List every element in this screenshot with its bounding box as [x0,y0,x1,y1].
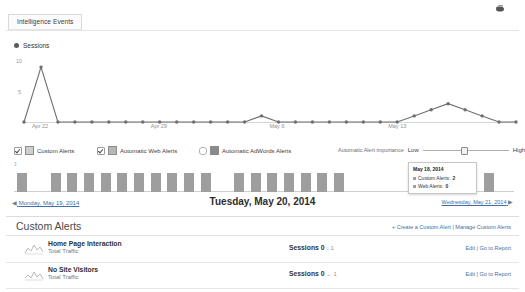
bar-apr-25[interactable] [84,173,94,192]
legend-label-sessions: Sessions [23,42,49,49]
tooltip-row-web-alerts: Web Alerts: 0 [413,183,473,191]
tab-intelligence-events[interactable]: Intelligence Events [8,14,82,30]
x-axis-tick-may13: May 13 [388,123,406,129]
alert-metric: Sessions 0 ← 1 [289,270,337,277]
bar-y-axis-tick: 3 [14,162,17,167]
bar-may-19[interactable] [484,173,494,192]
checkbox-custom-alerts[interactable] [14,147,22,155]
tab-label: Intelligence Events [17,18,73,25]
alert-metric-value: 0 [321,244,325,251]
custom-alerts-divider [6,235,519,236]
bar-may-7[interactable] [284,173,294,192]
go-to-report-link[interactable]: Go to Report [480,271,512,277]
swatch-automatic-adwords-alerts [210,146,219,155]
tooltip-swatch-icon [413,185,416,188]
importance-high-label: High [513,147,525,153]
bar-may-4[interactable] [234,173,244,192]
alert-row-no-site-visitors[interactable]: No Site Visitors Total Traffic Sessions … [0,263,525,289]
filter-label-automatic-adwords-alerts: Automatic AdWords Alerts [222,148,291,154]
filter-custom-alerts[interactable]: Custom Alerts [14,146,74,155]
bar-may-8[interactable] [301,173,311,192]
sparkline-icon [24,242,44,255]
bar-apr-30[interactable] [167,173,177,192]
bar-may-1[interactable] [184,173,194,192]
filter-automatic-web-alerts[interactable]: Automatic Web Alerts [97,146,177,155]
next-arrow-icon[interactable]: ▶ [508,199,513,205]
bar-may-6[interactable] [267,173,277,192]
bar-apr-26[interactable] [101,173,111,192]
bar-may-5[interactable] [251,173,261,192]
bar-apr-28[interactable] [134,173,144,192]
bar-apr-23[interactable] [51,173,61,192]
importance-low-label: Low [408,147,419,153]
go-to-report-link[interactable]: Go to Report [480,245,512,251]
tooltip-label-custom-alerts: Custom Alerts: [418,175,451,183]
edit-link[interactable]: Edit [466,245,475,251]
filter-label-custom-alerts: Custom Alerts [37,148,74,154]
alert-name[interactable]: No Site Visitors [48,266,98,273]
legend-dot-icon [14,43,19,48]
x-axis-tick-may6: May 6 [269,123,284,129]
date-navigation: ◀ Monday, May 19, 2014 Tuesday, May 20, … [0,196,525,214]
alert-row-divider [6,288,519,289]
next-day-link[interactable]: Wednesday, May 21, 2014 ▶ [442,199,513,205]
swatch-automatic-web-alerts [108,146,117,155]
alert-actions: Edit | Go to Report [466,271,511,277]
alert-subtitle: Total Traffic [48,248,79,254]
x-axis-tick-apr29: Apr 29 [151,123,167,129]
intelligence-events-page: Intelligence Events Sessions 10 5 Apr 22… [0,0,525,292]
alert-metric-label: Sessions [289,244,319,251]
alert-row-home-page-interaction[interactable]: Home Page Interaction Total Traffic Sess… [0,237,525,263]
bar-tooltip: May 18, 2014 Custom Alerts: 2 Web Alerts… [408,162,477,194]
custom-alerts-links: + Create a Custom Alert | Manage Custom … [392,224,511,230]
bar-apr-29[interactable] [151,173,161,192]
tooltip-swatch-icon [413,177,416,180]
create-custom-alert-link[interactable]: + Create a Custom Alert [392,224,451,230]
bar-apr-24[interactable] [67,173,77,192]
swatch-custom-alerts [25,146,34,155]
date-nav-divider [6,216,519,217]
alert-actions: Edit | Go to Report [466,245,511,251]
top-bar: Intelligence Events [0,0,525,31]
line-series [0,55,525,133]
share-icon[interactable] [494,4,506,13]
tooltip-value-web-alerts: 0 [445,183,448,191]
next-day-label: Wednesday, May 21, 2014 [442,199,507,205]
edit-link[interactable]: Edit [466,271,475,277]
alert-metric: Sessions 0 ↓ 1 [289,244,334,251]
alert-metric-delta: ← 1 [326,271,336,277]
tooltip-row-custom-alerts: Custom Alerts: 2 [413,175,473,183]
filter-automatic-adwords-alerts[interactable]: Automatic AdWords Alerts [199,146,291,155]
topbar-divider [6,30,519,31]
importance-slider[interactable] [423,146,509,154]
alert-subtitle: Total Traffic [48,274,79,280]
alert-metric-label: Sessions [289,270,319,277]
tooltip-label-web-alerts: Web Alerts: [418,183,443,191]
bar-apr-21[interactable] [17,173,27,192]
bar-apr-27[interactable] [117,173,127,192]
sessions-line-chart: 10 5 Apr 22 Apr 29 May 6 May 13 [0,55,525,133]
alert-name[interactable]: Home Page Interaction [48,240,122,247]
bar-may-2[interactable] [201,173,211,192]
x-axis-tick-apr22: Apr 22 [32,123,48,129]
importance-label: Automatic Alert importance [338,147,404,153]
checkbox-automatic-web-alerts[interactable] [97,147,105,155]
custom-alerts-title: Custom Alerts [16,220,81,232]
slider-knob[interactable] [461,147,468,155]
bar-may-9[interactable] [317,173,327,192]
filter-label-automatic-web-alerts: Automatic Web Alerts [120,148,177,154]
tooltip-value-custom-alerts: 2 [453,175,456,183]
sparkline-icon [24,268,44,281]
alert-metric-delta: ↓ 1 [326,245,333,251]
alert-importance-control: Automatic Alert importance Low High [338,146,525,154]
alert-metric-value: 0 [321,270,325,277]
tooltip-date: May 18, 2014 [413,166,473,174]
bar-may-10[interactable] [334,173,344,192]
line-chart-legend: Sessions [14,42,49,49]
manage-custom-alerts-link[interactable]: Manage Custom Alerts [455,224,511,230]
checkbox-automatic-adwords-alerts[interactable] [199,147,207,155]
